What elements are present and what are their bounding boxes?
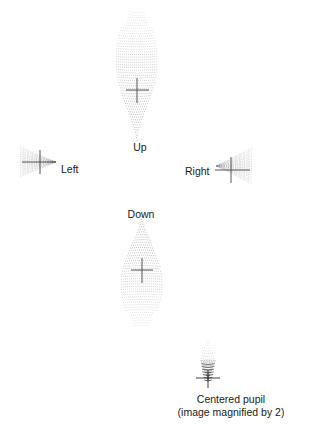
spot-right <box>216 148 252 184</box>
crosshair-down <box>131 258 153 283</box>
label-left: Left <box>61 164 79 175</box>
label-down: Down <box>128 209 155 220</box>
crosshair-centered <box>196 370 220 388</box>
spot-up <box>116 12 158 141</box>
label-magnification-note: (image magnified by 2) <box>178 407 284 418</box>
crosshair-left <box>22 150 56 174</box>
label-up: Up <box>133 142 146 153</box>
label-centered-pupil: Centered pupil <box>197 394 265 405</box>
label-right: Right <box>185 166 210 177</box>
